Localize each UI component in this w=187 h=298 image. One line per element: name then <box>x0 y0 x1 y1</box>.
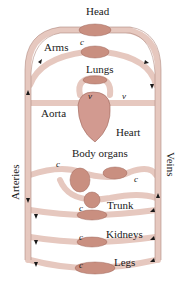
body-organ-capillaries-1 <box>70 168 90 192</box>
label-arms: Arms <box>44 42 68 53</box>
label-trunk: Trunk <box>107 200 134 211</box>
capillary-marker: c <box>79 261 83 270</box>
veins-vessel <box>108 30 158 260</box>
arms-capillaries <box>81 46 109 58</box>
lungs-capillaries <box>83 76 107 84</box>
arrow-icon <box>34 214 38 219</box>
arrow-icon <box>34 240 38 245</box>
arteries-vessel <box>28 30 82 260</box>
label-kidneys: Kidneys <box>106 229 143 240</box>
body-organ-capillaries-2 <box>103 167 127 179</box>
label-body-organs: Body organs <box>72 148 128 159</box>
label-head: Head <box>86 6 109 17</box>
arrow-icon <box>38 59 42 64</box>
capillary-marker: c <box>56 160 60 169</box>
valve-marker: v <box>122 92 126 101</box>
label-heart: Heart <box>116 127 140 138</box>
valve-marker: v <box>88 92 92 101</box>
label-legs: Legs <box>114 257 135 268</box>
head-capillaries <box>79 24 111 36</box>
capillary-marker: c <box>79 233 83 242</box>
capillary-marker: c <box>80 38 84 47</box>
label-arteries: Arteries <box>10 165 21 200</box>
heart-shape <box>78 92 110 142</box>
body-organ-capillaries-3 <box>84 192 100 208</box>
label-lungs: Lungs <box>86 64 114 75</box>
arrow-icon <box>150 84 154 89</box>
arrow-icon <box>144 60 149 64</box>
label-aorta: Aorta <box>41 108 66 119</box>
capillary-marker: c <box>134 175 138 184</box>
capillary-marker: c <box>79 204 83 213</box>
label-veins: Veins <box>165 152 176 176</box>
